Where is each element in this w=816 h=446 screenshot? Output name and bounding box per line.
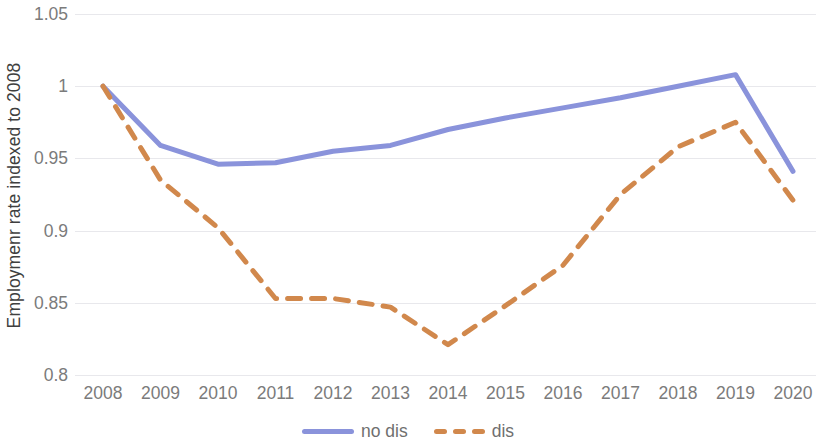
legend-swatch-dashed bbox=[434, 429, 485, 434]
y-axis-tick-label: 0.9 bbox=[13, 220, 75, 241]
gridline bbox=[75, 375, 816, 376]
x-axis-tick-label: 2009 bbox=[131, 383, 191, 404]
y-axis-tick-labels: 1.0510.950.90.850.8 bbox=[8, 0, 75, 446]
series-line-dis bbox=[103, 86, 793, 344]
series-line-no-dis bbox=[103, 75, 793, 172]
x-axis-tick-label: 2019 bbox=[706, 383, 766, 404]
x-axis-tick-labels: 2008200920102011201220132014201520162017… bbox=[0, 383, 816, 409]
line-chart: Employmenr rate indexed to 2008 1.0510.9… bbox=[0, 0, 816, 446]
y-axis-tick-label: 0.95 bbox=[13, 148, 75, 169]
x-axis-tick-label: 2020 bbox=[763, 383, 816, 404]
x-axis-tick-label: 2017 bbox=[591, 383, 651, 404]
x-axis-tick-label: 2016 bbox=[533, 383, 593, 404]
y-axis-tick-label: 1 bbox=[13, 76, 75, 97]
y-axis-tick-label: 1.05 bbox=[13, 4, 75, 25]
x-axis-tick-label: 2012 bbox=[303, 383, 363, 404]
x-axis-tick-label: 2018 bbox=[648, 383, 708, 404]
legend-dash-segment bbox=[434, 429, 447, 434]
x-axis-tick-label: 2014 bbox=[418, 383, 478, 404]
legend-entry-no-dis[interactable]: no dis bbox=[302, 421, 408, 442]
y-axis-tick-label: 0.85 bbox=[13, 292, 75, 313]
legend-entry-dis[interactable]: dis bbox=[434, 421, 514, 442]
legend-swatch-solid bbox=[302, 429, 354, 434]
legend-dash-segment bbox=[453, 429, 466, 434]
x-axis-tick-label: 2011 bbox=[246, 383, 306, 404]
legend-label: dis bbox=[492, 421, 514, 442]
chart-legend: no disdis bbox=[0, 416, 816, 446]
x-axis-tick-label: 2013 bbox=[361, 383, 421, 404]
legend-dash-segment bbox=[472, 429, 485, 434]
x-axis-tick-label: 2015 bbox=[476, 383, 536, 404]
x-axis-tick-label: 2008 bbox=[73, 383, 133, 404]
legend-label: no dis bbox=[361, 421, 408, 442]
plot-lines bbox=[75, 14, 816, 375]
x-axis-tick-label: 2010 bbox=[188, 383, 248, 404]
plot-area bbox=[75, 14, 816, 375]
